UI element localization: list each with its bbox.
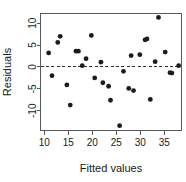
- data-point: [50, 73, 55, 78]
- x-tick-label: 20: [87, 137, 99, 148]
- x-tick-label: 30: [135, 137, 147, 148]
- data-point: [46, 51, 51, 56]
- y-tick-label: 0: [27, 64, 38, 70]
- x-tick-label: 15: [63, 137, 75, 148]
- x-tick-label: 35: [159, 137, 171, 148]
- data-point: [148, 97, 153, 102]
- data-point: [58, 34, 63, 39]
- data-point: [76, 49, 81, 54]
- data-point: [108, 98, 113, 103]
- data-point: [153, 59, 158, 64]
- y-tick-label: 5: [27, 42, 38, 48]
- x-tick-label: 25: [111, 137, 123, 148]
- data-point: [92, 76, 97, 81]
- data-point: [100, 80, 105, 85]
- data-point: [163, 50, 168, 55]
- data-point: [68, 103, 73, 108]
- data-point: [131, 88, 136, 93]
- data-point: [80, 63, 85, 68]
- data-point: [126, 86, 131, 91]
- y-tick-label: 10: [27, 17, 38, 29]
- data-point: [156, 15, 161, 20]
- data-point: [106, 84, 111, 89]
- data-point: [129, 53, 134, 58]
- residual-diagnostic-chart: 101520253035 1050-5-10 Fitted values Res…: [0, 0, 186, 182]
- data-point: [176, 63, 181, 68]
- data-point: [89, 33, 94, 38]
- data-point: [137, 52, 142, 57]
- data-point: [145, 37, 150, 42]
- data-point: [117, 123, 122, 128]
- data-point: [64, 83, 69, 88]
- y-tick-label: -10: [27, 103, 38, 118]
- data-point: [170, 71, 175, 76]
- x-axis-title: Fitted values: [80, 162, 143, 174]
- y-axis-title: Residuals: [1, 47, 13, 96]
- scatter-plot-canvas: 101520253035 1050-5-10 Fitted values Res…: [0, 0, 186, 182]
- y-tick-label: -5: [27, 84, 38, 93]
- data-point: [84, 56, 89, 61]
- data-point: [121, 69, 126, 74]
- data-point: [55, 40, 60, 45]
- x-tick-label: 10: [39, 137, 51, 148]
- data-point: [99, 60, 104, 65]
